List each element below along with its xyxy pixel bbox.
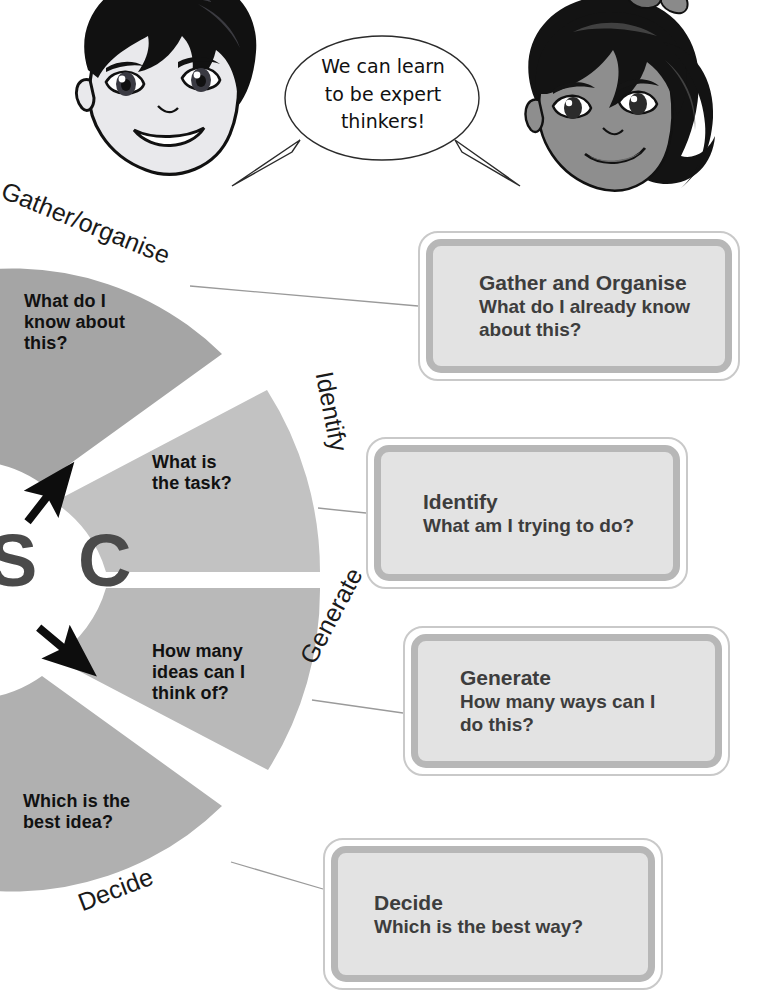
step-card-gather[interactable]: Gather and Organise What do I already kn…: [418, 231, 740, 381]
step-card-gather-subtitle: What do I already know about this?: [479, 296, 690, 342]
step-card-identify-body: Identify What am I trying to do?: [381, 489, 648, 538]
step-card-gather-inner: Gather and Organise What do I already kn…: [426, 239, 732, 373]
step-card-generate-body: Generate How many ways can I do this?: [418, 665, 669, 737]
connector-gather: [190, 286, 418, 306]
wheel-segment-question-generate: How many ideas can I think of?: [152, 641, 245, 704]
step-card-generate-inner: Generate How many ways can I do this?: [411, 634, 722, 768]
wheel-segment-question-gather: What do I know about this?: [24, 291, 125, 354]
step-card-decide-subtitle: Which is the best way?: [374, 916, 583, 939]
connector-generate: [312, 700, 403, 713]
step-card-decide[interactable]: Decide Which is the best way?: [323, 838, 663, 990]
step-card-generate-subtitle: How many ways can I do this?: [460, 691, 655, 737]
step-card-gather-body: Gather and Organise What do I already kn…: [433, 270, 704, 342]
wheel-segment-question-identify: What is the task?: [152, 452, 232, 494]
step-card-decide-inner: Decide Which is the best way?: [331, 846, 655, 982]
connector-decide: [231, 862, 323, 889]
wheel-segment-question-decide: Which is the best idea?: [23, 791, 130, 833]
speech-bubble-tail-right: [455, 140, 520, 186]
step-card-decide-title: Decide: [374, 890, 583, 915]
step-card-gather-title: Gather and Organise: [479, 270, 690, 295]
boy-ear: [76, 79, 94, 110]
connector-identify: [318, 508, 366, 513]
step-card-generate[interactable]: Generate How many ways can I do this?: [403, 626, 730, 776]
step-card-generate-title: Generate: [460, 665, 655, 690]
speech-bubble-tail-left: [232, 140, 300, 186]
step-card-identify-inner: Identify What am I trying to do?: [374, 445, 680, 581]
step-card-decide-body: Decide Which is the best way?: [338, 890, 597, 939]
character-boy: [76, 0, 256, 174]
step-card-identify-subtitle: What am I trying to do?: [423, 515, 634, 538]
character-girl: [525, 0, 715, 191]
girl-ear: [525, 100, 543, 133]
speech-bubble-text: We can learn to be expert thinkers!: [288, 53, 478, 136]
step-card-identify[interactable]: Identify What am I trying to do?: [366, 437, 688, 589]
wheel-hub-letters: S C: [0, 524, 141, 598]
step-card-identify-title: Identify: [423, 489, 634, 514]
